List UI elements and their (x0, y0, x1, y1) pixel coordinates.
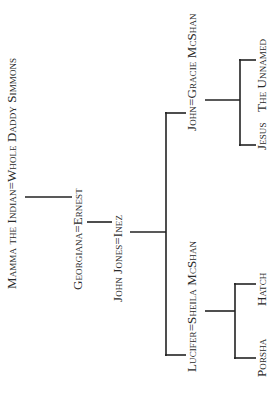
child-hatch-label: Hatch (254, 272, 269, 306)
gen4b-couple-label: Lucifer=Sheila McShan (184, 240, 199, 372)
child-porsha-label: Porsha (254, 338, 269, 377)
root-couple-label: Mamma the Indian=Whole Daddy Simmons (4, 58, 19, 289)
family-tree-diagram: Mamma the Indian=Whole Daddy Simmons Geo… (0, 0, 274, 411)
gen3-couple-label: John Jones=Inez (110, 215, 125, 302)
child-the-unnamed-label: The Unnamed (254, 38, 269, 112)
child-jesus-label: Jesus (254, 122, 269, 150)
gen2-couple-label: Georgiana=Ernest (70, 188, 85, 290)
gen4a-couple-label: John=Gracie McShan (184, 13, 199, 131)
